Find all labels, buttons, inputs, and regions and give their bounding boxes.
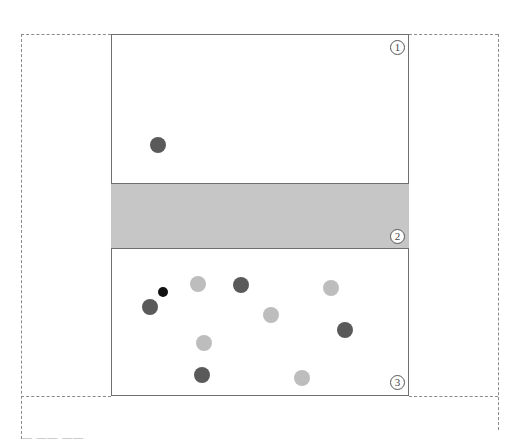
region-label-1: 1	[390, 40, 405, 55]
dashed-bottom-left	[21, 396, 111, 397]
light-dot	[196, 335, 212, 351]
dashed-left	[21, 34, 22, 439]
dark-dot	[337, 322, 353, 338]
light-dot	[190, 276, 206, 292]
dark-dot	[194, 367, 210, 383]
dashed-right	[498, 34, 499, 430]
region-label-3: 3	[390, 375, 405, 390]
region-label-2: 2	[390, 229, 405, 244]
light-dot	[294, 370, 310, 386]
shaded-band-region-2	[111, 183, 409, 249]
dashed-top-right	[409, 34, 498, 35]
caption: — —— ——	[22, 432, 84, 439]
dark-dot	[150, 137, 166, 153]
dashed-bottom-right	[409, 396, 498, 397]
dark-dot	[142, 299, 158, 315]
black-dot	[158, 287, 168, 297]
light-dot	[263, 307, 279, 323]
light-dot	[323, 280, 339, 296]
dark-dot	[233, 277, 249, 293]
dashed-top-left	[21, 34, 111, 35]
